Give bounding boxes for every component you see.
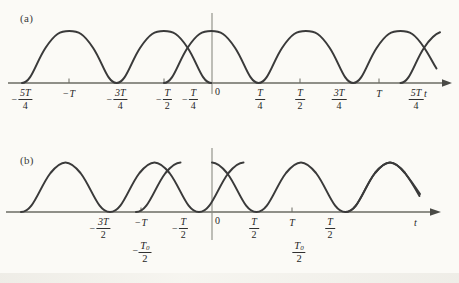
period-annotation: T02: [292, 240, 305, 264]
panel-a-axis-name: t: [424, 88, 427, 99]
panel-a-curve-right: [164, 31, 437, 83]
denominator: 2: [249, 230, 259, 241]
minus-sign: −: [89, 224, 96, 234]
panel-a-curve-tail: [401, 32, 441, 83]
fraction: T4: [255, 88, 265, 111]
tick-value: T: [376, 89, 382, 99]
numerator: T0: [138, 240, 151, 251]
panel-b-curve-left: [21, 163, 244, 213]
minus-sign: −: [182, 95, 189, 105]
tick-label: −T2: [156, 88, 172, 111]
tick-label: −T: [135, 217, 147, 228]
panel-a-x-axis-arrowhead: [442, 79, 452, 87]
tick-label: −3T2: [89, 217, 110, 240]
denominator: 2: [292, 253, 305, 264]
fraction: 3T4: [332, 88, 347, 111]
panel-b: (b) 0 t −3T2 −T: [0, 140, 459, 283]
figure-container: (a) 0 t −5T4 −T: [0, 0, 459, 283]
fraction: T4: [189, 88, 199, 111]
fraction: T2: [249, 217, 259, 240]
tick-label: 5T4: [409, 88, 424, 111]
tick-label: −5T4: [11, 88, 32, 111]
numerator: T: [295, 88, 305, 99]
denominator: 4: [332, 101, 347, 112]
numerator: T: [163, 88, 173, 99]
tick-label: T2: [325, 217, 335, 240]
numerator: T0: [292, 240, 305, 251]
fraction: T02: [138, 240, 151, 264]
denominator: 2: [96, 230, 111, 241]
panel-b-origin-label: 0: [215, 215, 220, 226]
tick-label: T: [376, 88, 382, 99]
denominator: 2: [138, 253, 151, 264]
tick-label: −T: [63, 88, 75, 99]
fraction: 3T2: [96, 217, 111, 240]
denominator: 4: [255, 101, 265, 112]
minus-sign: −: [172, 224, 179, 234]
panel-a: (a) 0 t −5T4 −T: [0, 0, 459, 140]
tick-label: T2: [295, 88, 305, 111]
panel-a-plot: [0, 0, 459, 140]
tick-label: −3T4: [106, 88, 127, 111]
panel-b-plot: [0, 140, 459, 283]
denominator: 2: [163, 101, 173, 112]
fraction: T2: [325, 217, 335, 240]
numerator: T: [255, 88, 265, 99]
numerator: T: [189, 88, 199, 99]
denominator: 4: [409, 101, 424, 112]
minus-sign: −: [63, 89, 70, 99]
numerator: 5T: [18, 88, 33, 99]
tick-label: −T2: [172, 217, 188, 240]
tick-label: T2: [249, 217, 259, 240]
numerator-subscript: 0: [146, 244, 150, 252]
tick-value: T: [142, 218, 148, 228]
tick-label: 3T4: [332, 88, 347, 111]
tick-value: T: [70, 89, 76, 99]
fraction: T2: [163, 88, 173, 111]
numerator: 5T: [409, 88, 424, 99]
panel-a-origin-label: 0: [215, 86, 220, 97]
numerator: T: [179, 217, 189, 228]
numerator: 3T: [96, 217, 111, 228]
fraction: 3T4: [113, 88, 128, 111]
minus-sign: −: [11, 95, 18, 105]
minus-sign: −: [156, 95, 163, 105]
numerator: 3T: [332, 88, 347, 99]
denominator: 2: [295, 101, 305, 112]
denominator: 4: [18, 101, 33, 112]
panel-b-axis-name: t: [414, 217, 417, 228]
fraction: T2: [295, 88, 305, 111]
period-annotation: −T02: [133, 240, 152, 264]
denominator: 4: [113, 101, 128, 112]
tick-label: T: [289, 217, 295, 228]
fraction: T02: [292, 240, 305, 264]
minus-sign: −: [135, 218, 142, 228]
tick-value: T: [289, 218, 295, 228]
numerator: 3T: [113, 88, 128, 99]
denominator: 4: [189, 101, 199, 112]
fraction: T2: [179, 217, 189, 240]
minus-sign: −: [106, 95, 113, 105]
panel-b-curve-tail: [346, 163, 421, 213]
numerator-symbol: T: [294, 240, 300, 251]
fraction: 5T4: [409, 88, 424, 111]
numerator: T: [325, 217, 335, 228]
fraction: 5T4: [18, 88, 33, 111]
panel-b-curve-right: [212, 163, 420, 213]
denominator: 2: [179, 230, 189, 241]
panel-b-x-axis-arrowhead: [430, 208, 441, 216]
numerator-subscript: 0: [300, 244, 304, 252]
tick-label: −T4: [182, 88, 198, 111]
numerator: T: [249, 217, 259, 228]
denominator: 2: [325, 230, 335, 241]
tick-label: T4: [255, 88, 265, 111]
